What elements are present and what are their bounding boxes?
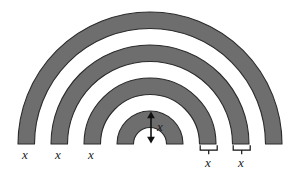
label-x-left-2: x (55, 148, 61, 161)
label-x-right-1: x (205, 156, 211, 169)
arch-diagram-figure: x x x x x x (0, 0, 300, 181)
label-x-left-1: x (22, 148, 28, 161)
arch-diagram-svg (0, 0, 300, 181)
label-x-center-height: x (157, 120, 163, 133)
label-x-left-3: x (88, 148, 94, 161)
label-x-right-2: x (238, 156, 244, 169)
